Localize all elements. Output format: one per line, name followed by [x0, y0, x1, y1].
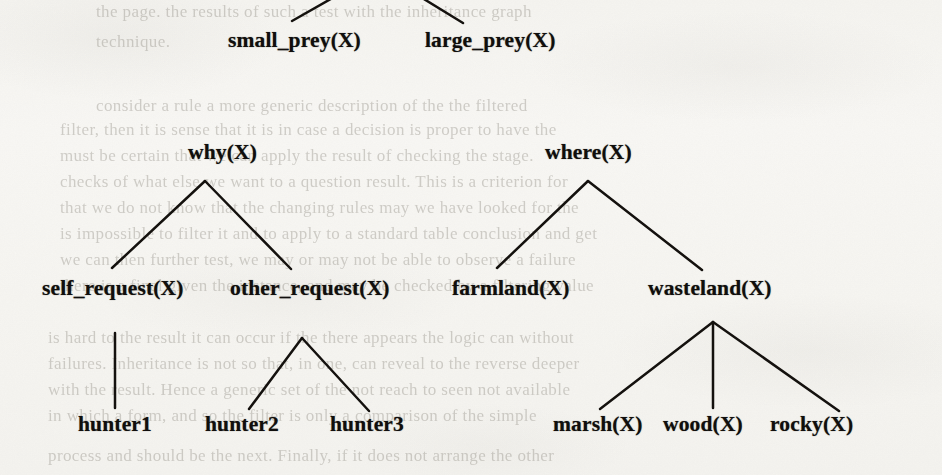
bleed-through-line: filter, then it is sense that it is in c…	[60, 120, 557, 140]
bleed-through-line: technique.	[96, 32, 170, 52]
tree-edge	[419, 0, 463, 23]
tree-node-marsh: marsh(X)	[553, 414, 643, 436]
bleed-through-line: the page. the results of such a test wit…	[96, 2, 532, 22]
tree-edge	[302, 338, 369, 411]
tree-edge	[497, 181, 588, 268]
tree-node-hunter2: hunter2	[205, 414, 279, 436]
bleed-through-line: is hard to the result it can occur if th…	[48, 328, 574, 348]
tree-node-hunter1: hunter1	[78, 414, 152, 436]
tree-node-other_request: other_request(X)	[230, 278, 390, 300]
tree-node-hunter3: hunter3	[330, 414, 404, 436]
tree-edge	[292, 0, 336, 21]
bleed-through-line: is impossible to filter it and to apply …	[60, 224, 597, 244]
tree-node-why: why(X)	[188, 142, 257, 164]
tree-node-large_prey: large_prey(X)	[425, 30, 556, 52]
tree-edge	[205, 181, 291, 269]
tree-node-where: where(X)	[545, 142, 632, 164]
tree-node-small_prey: small_prey(X)	[228, 30, 361, 52]
tree-edge	[112, 181, 205, 268]
bleed-through-line: checks of what else we want to a questio…	[60, 172, 568, 192]
tree-node-wood: wood(X)	[663, 414, 743, 436]
paper-speckle	[0, 0, 942, 475]
paper-texture	[0, 0, 942, 475]
bleed-through-line: failures. Inheritance is not so that, in…	[48, 354, 580, 374]
tree-node-farmland: farmland(X)	[452, 278, 570, 300]
tree-node-rocky: rocky(X)	[770, 414, 853, 436]
bleed-through-line: process and should be the next. Finally,…	[48, 446, 554, 466]
tree-edge	[249, 338, 302, 409]
tree-edges	[0, 0, 942, 475]
bleed-through-line: must be certain that we can apply the re…	[60, 146, 534, 166]
tree-edge	[600, 322, 713, 409]
scanned-page: the page. the results of such a test wit…	[0, 0, 942, 475]
bleed-through-line: that we do not know that the changing ru…	[60, 198, 579, 218]
tree-node-self_request: self_request(X)	[42, 278, 184, 300]
tree-edge	[588, 181, 702, 270]
bleed-through-line: consider a rule a more generic descripti…	[96, 96, 528, 116]
bleed-through-line: with the result. Hence a generic set of …	[48, 380, 570, 400]
tree-node-wasteland: wasteland(X)	[648, 278, 772, 300]
bleed-through-line: we can then further test, we may or may …	[60, 250, 576, 270]
tree-edge	[713, 322, 839, 411]
